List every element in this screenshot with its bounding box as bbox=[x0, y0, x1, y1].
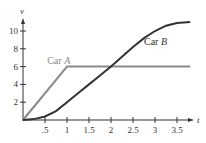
x-tick-label: 1 bbox=[65, 125, 70, 135]
y-tick-label: 6 bbox=[14, 62, 19, 72]
x-tick-label: 1.5 bbox=[83, 125, 95, 135]
x-tick-label: .5 bbox=[42, 125, 49, 135]
y-tick-label: 10 bbox=[9, 26, 19, 36]
x-tick-label: 2 bbox=[109, 125, 114, 135]
x-tick-label: 2.5 bbox=[127, 125, 139, 135]
x-axis-arrow-icon bbox=[188, 118, 194, 122]
x-axis-label: t bbox=[197, 115, 200, 125]
x-tick-label: 3.5 bbox=[171, 125, 183, 135]
y-axis-arrow-icon bbox=[21, 18, 25, 24]
y-tick-label: 2 bbox=[14, 97, 19, 107]
velocity-chart: 246810 .511.522.533.5 v t Car A Car B bbox=[0, 0, 206, 143]
car-a-label: Car A bbox=[47, 55, 71, 66]
car-b-label: Car B bbox=[144, 36, 167, 47]
x-tick-label: 3 bbox=[153, 125, 158, 135]
series-car-a bbox=[23, 67, 190, 120]
y-axis-label: v bbox=[20, 6, 24, 16]
y-tick-label: 8 bbox=[14, 44, 19, 54]
y-tick-label: 4 bbox=[14, 79, 19, 89]
